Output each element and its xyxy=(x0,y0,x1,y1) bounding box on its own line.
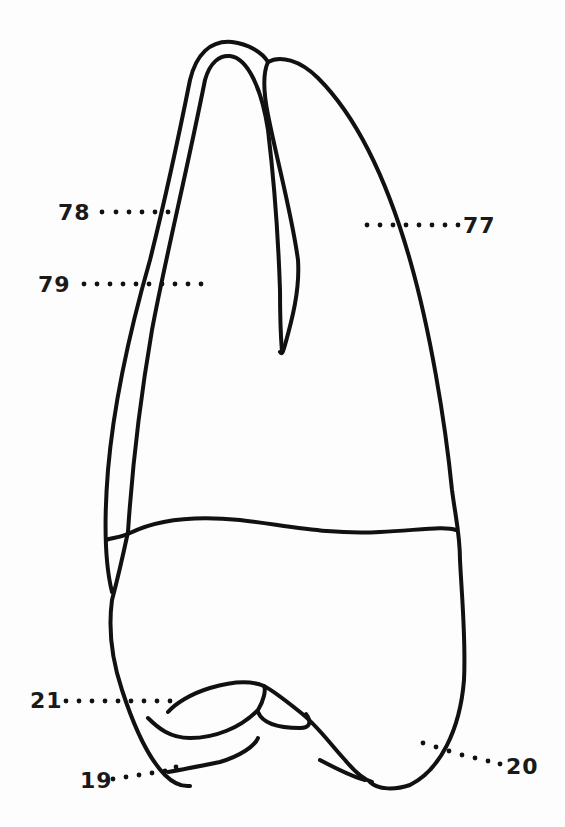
cervical-line xyxy=(106,518,456,540)
left-crown-wall xyxy=(110,532,190,786)
cusp-lower-left xyxy=(168,738,258,772)
label-77: 77 xyxy=(463,215,496,237)
cusp-left-outer xyxy=(148,682,265,738)
tooth-outline-drawing xyxy=(0,0,565,827)
cusp-center xyxy=(264,686,372,782)
label-21: 21 xyxy=(30,690,63,712)
label-79: 79 xyxy=(38,274,71,296)
leader-20 xyxy=(421,741,503,767)
label-19: 19 xyxy=(80,770,113,792)
label-20: 20 xyxy=(506,756,539,778)
left-root-inner-wall xyxy=(128,56,282,532)
tooth-diagram: 78 79 77 21 19 20 xyxy=(0,0,565,827)
leader-77 xyxy=(365,223,461,228)
label-78: 78 xyxy=(58,202,91,224)
cusp-lower-right xyxy=(320,760,365,780)
leader-21 xyxy=(64,699,173,704)
outer-contour xyxy=(105,42,464,789)
